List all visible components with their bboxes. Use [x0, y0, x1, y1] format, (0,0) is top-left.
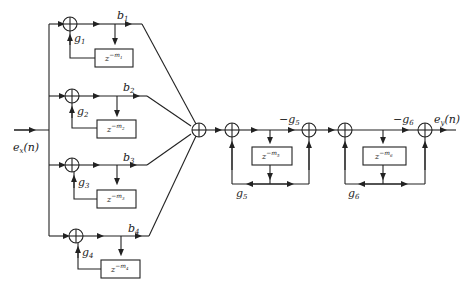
gain-g5-label: g5	[236, 187, 248, 201]
gain-g6-label: g6	[348, 187, 360, 201]
gain-g2-label: g2	[77, 105, 89, 119]
output-label: ey(n)	[434, 113, 460, 127]
comb-filter-1: z−m1 g1 b1	[49, 9, 196, 124]
input-signal: ex(n)	[13, 130, 49, 155]
comb-filter-2: z−m2 g2 b2	[49, 81, 191, 138]
gain-minus-g6-label: −g6	[393, 113, 414, 127]
gain-g4-label: g4	[82, 246, 94, 260]
comb-sum-node	[192, 123, 225, 137]
gain-b1-label: b1	[117, 9, 129, 23]
gain-minus-g5-label: −g5	[279, 113, 300, 127]
gain-b4-label: b4	[128, 222, 140, 236]
gain-g3-label: g3	[78, 176, 90, 190]
comb-filter-3: z−m3 g3 b3	[49, 134, 191, 208]
gain-b3-label: b3	[123, 151, 135, 165]
reverberator-block-diagram: ex(n) z−m1 g1 b1 z−m2 g2 b2	[0, 0, 465, 289]
input-label: ex(n)	[13, 141, 39, 155]
allpass-filter-1: z−m5 −g5 g5	[225, 113, 338, 201]
output-signal: ey(n)	[432, 113, 460, 130]
allpass-filter-2: z−m6 −g6 g6	[338, 113, 432, 201]
gain-g1-label: g1	[74, 32, 86, 46]
gain-b2-label: b2	[123, 81, 135, 95]
